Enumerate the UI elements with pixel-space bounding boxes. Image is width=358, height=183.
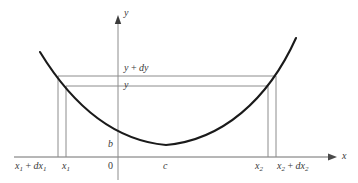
x-tick-label-x2-plus-dx2: x2 + dx2 bbox=[277, 161, 309, 171]
x-axis-label: x bbox=[342, 151, 346, 161]
x-tick-label-x2: x2 bbox=[255, 161, 263, 171]
x2-sub: 2 bbox=[259, 165, 263, 173]
x1-sub: 1 bbox=[66, 165, 70, 173]
diagram-canvas bbox=[0, 0, 358, 183]
x2-plus-dx2-diff-sub: 2 bbox=[305, 165, 309, 173]
y-axis-label: y bbox=[124, 8, 128, 18]
x-tick-label-x1: x1 bbox=[62, 161, 70, 171]
x1-plus-dx1-operator: + bbox=[23, 160, 34, 171]
y-intercept-label-b: b bbox=[108, 139, 113, 149]
level-label-y: y bbox=[124, 80, 128, 90]
x-tick-label-x1-plus-dx1: x1 + dx1 bbox=[15, 161, 47, 171]
level-label-y-plus-dy-differential: dy bbox=[139, 62, 148, 73]
x2-plus-dx2-diff: dx bbox=[296, 160, 305, 171]
x2-plus-dx2-operator: + bbox=[285, 160, 296, 171]
vertex-label-c: c bbox=[163, 161, 167, 171]
origin-label: 0 bbox=[108, 161, 113, 171]
level-label-y-plus-dy: y + dy bbox=[124, 63, 149, 73]
y-axis-arrow bbox=[115, 15, 121, 24]
parabola-curve bbox=[40, 38, 296, 145]
x-axis-arrow bbox=[328, 154, 337, 161]
parabola-differentials-diagram: y x 0 y + dy y b c x1 + dx1 x1 x2 x2 + d… bbox=[0, 0, 358, 183]
x1-plus-dx1-base-sub: 1 bbox=[19, 165, 23, 173]
level-label-y-plus-dy-operator: + bbox=[128, 62, 139, 73]
x1-plus-dx1-diff-sub: 1 bbox=[43, 165, 47, 173]
x1-plus-dx1-diff: dx bbox=[34, 160, 43, 171]
x2-plus-dx2-base-sub: 2 bbox=[281, 165, 285, 173]
